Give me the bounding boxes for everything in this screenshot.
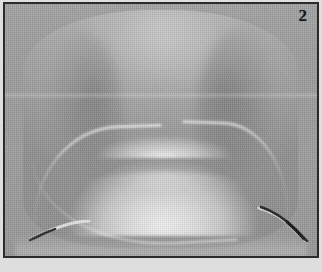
- bottom-edge-shadow: [15, 234, 307, 256]
- image-frame: 2: [3, 2, 319, 258]
- panel-number-label: 2: [299, 7, 308, 24]
- figure-panel: 2: [0, 0, 322, 272]
